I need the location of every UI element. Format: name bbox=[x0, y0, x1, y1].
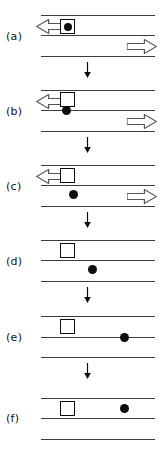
track-line bbox=[41, 15, 155, 16]
track-line bbox=[41, 131, 155, 132]
track-line bbox=[41, 337, 155, 338]
track-line bbox=[41, 56, 155, 57]
track-line bbox=[41, 35, 155, 36]
stage-transition-down-arrow-icon bbox=[83, 62, 92, 78]
track-line bbox=[41, 240, 155, 241]
square-glyph bbox=[60, 401, 75, 416]
circle-glyph bbox=[69, 190, 78, 199]
square-glyph bbox=[60, 92, 75, 107]
panel-label: (b) bbox=[6, 105, 22, 118]
square-glyph bbox=[60, 243, 75, 258]
track-line bbox=[41, 418, 155, 419]
inner-circle-glyph bbox=[64, 23, 72, 31]
square-glyph bbox=[60, 19, 75, 34]
track-line bbox=[41, 439, 155, 440]
circle-glyph bbox=[62, 106, 71, 115]
panel-label: (c) bbox=[6, 180, 22, 193]
square-glyph bbox=[60, 168, 75, 183]
circle-glyph bbox=[120, 404, 129, 413]
panel-label: (e) bbox=[6, 331, 22, 344]
stage-transition-down-arrow-icon bbox=[83, 287, 92, 303]
right-direction-arrow-icon bbox=[127, 114, 157, 129]
track-line bbox=[41, 206, 155, 207]
stage-transition-down-arrow-icon bbox=[83, 137, 92, 153]
circle-glyph bbox=[88, 265, 97, 274]
panel-label: (d) bbox=[6, 255, 22, 268]
right-direction-arrow-icon bbox=[127, 189, 157, 204]
track-line bbox=[41, 316, 155, 317]
panel-label: (a) bbox=[6, 30, 22, 43]
square-glyph bbox=[60, 319, 75, 334]
track-line bbox=[41, 185, 155, 186]
track-line bbox=[41, 281, 155, 282]
track-line bbox=[41, 398, 155, 399]
track-line bbox=[41, 165, 155, 166]
track-line bbox=[41, 357, 155, 358]
track-line bbox=[41, 110, 155, 111]
right-direction-arrow-icon bbox=[127, 39, 157, 54]
track-line bbox=[41, 90, 155, 91]
stage-transition-down-arrow-icon bbox=[83, 363, 92, 379]
figure-canvas: (a)(b)(c)(d)(e)(f) bbox=[0, 0, 167, 464]
stage-transition-down-arrow-icon bbox=[83, 212, 92, 228]
circle-glyph bbox=[120, 333, 129, 342]
panel-label: (f) bbox=[6, 412, 19, 425]
track-line bbox=[41, 260, 155, 261]
